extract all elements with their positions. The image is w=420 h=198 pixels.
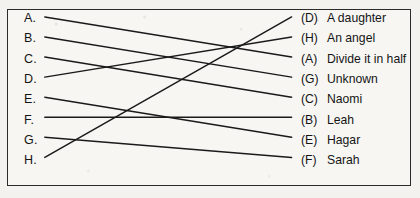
right-item-key: (D)	[301, 11, 327, 25]
right-item-3[interactable]: (G)Unknown	[301, 72, 378, 86]
left-item-h[interactable]: H.	[24, 153, 37, 167]
right-item-text: Leah	[327, 113, 354, 127]
right-item-key: (E)	[301, 133, 327, 147]
connection-line-b-to-g[interactable]	[45, 37, 292, 77]
right-item-text: Naomi	[327, 92, 362, 106]
left-column: A.B.C.D.E.F.G.H.	[24, 10, 58, 185]
connection-line-e-to-e[interactable]	[45, 97, 292, 137]
right-item-key: (F)	[301, 153, 327, 167]
left-item-a[interactable]: A.	[24, 11, 36, 25]
right-item-4[interactable]: (C)Naomi	[301, 92, 362, 106]
diagram-frame: A.B.C.D.E.F.G.H. (D)A daughter(H)An ange…	[7, 9, 411, 186]
right-item-0[interactable]: (D)A daughter	[301, 11, 386, 25]
right-item-text: Divide it in half	[327, 52, 406, 66]
connection-line-h-to-d[interactable]	[45, 17, 292, 157]
left-item-b[interactable]: B.	[24, 31, 36, 45]
right-item-text: A daughter	[327, 11, 386, 25]
right-item-7[interactable]: (F)Sarah	[301, 153, 360, 167]
left-item-g[interactable]: G.	[24, 133, 38, 147]
right-item-2[interactable]: (A)Divide it in half	[301, 52, 406, 66]
right-item-1[interactable]: (H)An angel	[301, 31, 375, 45]
right-item-key: (B)	[301, 113, 327, 127]
left-item-c[interactable]: C.	[24, 52, 37, 66]
left-item-e[interactable]: E.	[24, 92, 36, 106]
connection-line-a-to-a[interactable]	[45, 17, 292, 57]
right-item-key: (C)	[301, 92, 327, 106]
right-column: (D)A daughter(H)An angel(A)Divide it in …	[301, 10, 410, 185]
right-item-text: Unknown	[327, 72, 378, 86]
connection-line-g-to-f[interactable]	[45, 137, 292, 157]
right-item-text: Sarah	[327, 153, 360, 167]
connection-line-d-to-h[interactable]	[45, 37, 292, 77]
matching-diagram-page: A.B.C.D.E.F.G.H. (D)A daughter(H)An ange…	[0, 0, 420, 198]
left-item-d[interactable]: D.	[24, 72, 37, 86]
connection-line-c-to-c[interactable]	[45, 57, 292, 97]
right-item-text: An angel	[327, 31, 375, 45]
right-item-5[interactable]: (B)Leah	[301, 113, 354, 127]
left-item-f[interactable]: F.	[24, 113, 34, 127]
right-item-text: Hagar	[327, 133, 360, 147]
right-item-key: (A)	[301, 52, 327, 66]
right-item-key: (H)	[301, 31, 327, 45]
right-item-6[interactable]: (E)Hagar	[301, 133, 360, 147]
right-item-key: (G)	[301, 72, 327, 86]
